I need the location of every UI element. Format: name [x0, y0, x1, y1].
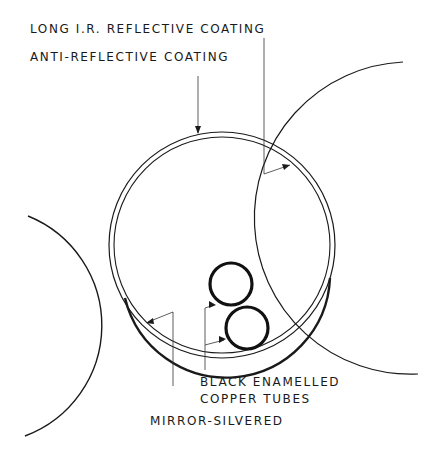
copper-tube-upper	[210, 263, 252, 305]
arrowhead-icon	[219, 336, 226, 343]
tubes-label-line2: COPPER TUBES	[200, 392, 311, 406]
arrowhead-icon	[146, 318, 154, 324]
arrowhead-icon	[209, 301, 216, 308]
tubes-leader-upper	[205, 305, 214, 370]
arrowhead-icon	[195, 126, 201, 134]
tubes-label-line1: BLACK ENAMELLED	[200, 375, 340, 389]
ir-coating-label: LONG I.R. REFLECTIVE COATING	[30, 22, 265, 36]
right-neighbor-tube	[254, 62, 418, 374]
ar-coating-label: ANTI-REFLECTIVE COATING	[30, 50, 229, 64]
glass-tube-outer	[109, 132, 335, 358]
mirror-label: MIRROR-SILVERED	[150, 414, 284, 428]
arrowhead-icon	[282, 164, 290, 170]
left-neighbor-tube	[25, 216, 102, 436]
glass-tube-inner	[114, 137, 330, 353]
copper-tube-lower	[226, 307, 268, 349]
collector-cross-section-drawing	[0, 0, 423, 458]
